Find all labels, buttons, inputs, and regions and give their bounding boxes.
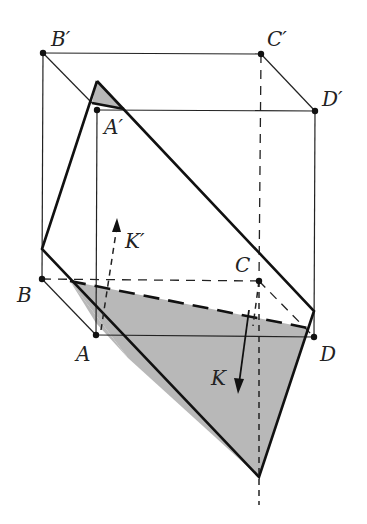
edge-dprime-d <box>314 111 315 337</box>
point-dprime <box>312 108 318 114</box>
point-bprime <box>40 50 46 56</box>
point-a <box>93 332 99 338</box>
label-c: C <box>235 253 250 277</box>
label-k: K <box>210 366 227 390</box>
edge-bprime-cprime <box>43 53 261 54</box>
lower-shaded-section <box>70 281 308 477</box>
label-b: B <box>16 283 32 307</box>
edge-cprime-dprime <box>261 54 315 111</box>
point-c <box>256 278 262 284</box>
point-aprime <box>94 107 100 113</box>
label-a: A <box>74 342 90 366</box>
point-d <box>311 334 317 340</box>
k-prime-arrowhead-icon <box>112 218 121 232</box>
label-cprime: C′ <box>267 27 287 51</box>
label-aprime: A′ <box>102 115 123 139</box>
label-d: D <box>319 342 336 366</box>
point-cprime <box>258 51 264 57</box>
cube-section-diagram: B′ C′ A′ D′ B C A D K′ K <box>0 0 367 524</box>
label-dprime: D′ <box>321 87 343 111</box>
label-k-prime: K′ <box>124 229 145 253</box>
label-bprime: B′ <box>50 27 71 51</box>
edge-bprime-aprime <box>43 53 92 103</box>
point-b <box>39 276 45 282</box>
edge-aprime-dprime <box>97 110 315 111</box>
hidden-edge-cprime-c <box>259 54 261 281</box>
